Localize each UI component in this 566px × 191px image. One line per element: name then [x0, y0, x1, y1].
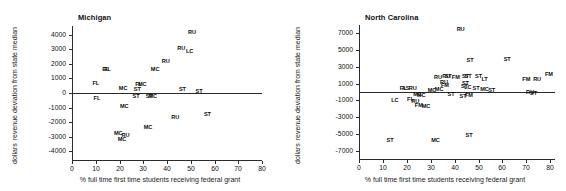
north-carolina-y-tick-label: -3000 — [319, 113, 353, 120]
michigan-x-tick — [96, 161, 97, 164]
north-carolina-x-tick-label: 30 — [421, 164, 441, 171]
north-carolina-y-tick — [356, 50, 359, 51]
michigan-y-tick-label: -4000 — [32, 147, 66, 154]
panel-north-carolina: North Carolina dollars revenue deviation… — [283, 0, 566, 191]
michigan-x-tick — [143, 161, 144, 164]
north-carolina-y-tick-label: -5000 — [319, 130, 353, 137]
michigan-y-tick-label: 3000 — [32, 45, 66, 52]
michigan-data-point: MC — [119, 87, 128, 93]
michigan-data-point: ST — [204, 112, 211, 118]
north-carolina-y-tick-label: -1000 — [319, 96, 353, 103]
michigan-y-tick-label: -2000 — [32, 118, 66, 125]
north-carolina-y-tick — [356, 33, 359, 34]
michigan-x-tick-label: 10 — [86, 165, 106, 172]
north-carolina-data-point: RU — [409, 86, 417, 92]
michigan-data-point: MC — [144, 125, 153, 131]
michigan-y-tick — [69, 49, 72, 50]
north-carolina-x-tick-label: 0 — [349, 164, 369, 171]
michigan-data-point: ST — [134, 87, 141, 93]
north-carolina-data-point: ST — [448, 92, 455, 98]
north-carolina-y-tick-label: 7000 — [319, 29, 353, 36]
north-carolina-y-tick — [356, 117, 359, 118]
michigan-x-tick-label: 20 — [110, 165, 130, 172]
north-carolina-data-point: MC — [428, 88, 437, 94]
north-carolina-data-point: ST — [466, 133, 473, 139]
michigan-x-tick — [238, 161, 239, 164]
michigan-x-tick — [191, 161, 192, 164]
north-carolina-x-tick-label: 70 — [516, 164, 536, 171]
north-carolina-data-point: RU — [457, 27, 465, 33]
michigan-data-point: MC — [149, 94, 158, 100]
michigan-x-tick — [72, 161, 73, 164]
michigan-x-tick-label: 60 — [205, 165, 225, 172]
michigan-data-point: ST — [133, 94, 140, 100]
north-carolina-data-point: ST — [504, 57, 511, 63]
north-carolina-x-tick — [455, 160, 456, 163]
michigan-y-tick-label: 0 — [32, 89, 66, 96]
michigan-data-point: EL — [102, 67, 109, 73]
michigan-x-tick — [262, 161, 263, 164]
north-carolina-y-tick-label: 1000 — [319, 80, 353, 87]
michigan-y-tick-label: 2000 — [32, 60, 66, 67]
plot-area-michigan: -4000-3000-2000-100001000200030004000010… — [0, 0, 283, 191]
north-carolina-data-point: ST — [465, 74, 472, 80]
north-carolina-data-point: RU — [533, 78, 541, 84]
north-carolina-x-tick — [550, 160, 551, 163]
north-carolina-x-tick — [431, 160, 432, 163]
michigan-x-tick-label: 50 — [181, 165, 201, 172]
north-carolina-data-point: LT — [481, 78, 487, 84]
north-carolina-x-tick — [407, 160, 408, 163]
michigan-data-point: RU — [171, 115, 179, 121]
michigan-x-tick-label: 80 — [252, 165, 272, 172]
michigan-y-tick-label: -1000 — [32, 104, 66, 111]
north-carolina-y-tick-label: 3000 — [319, 63, 353, 70]
panel-michigan: Michigan dollars revenue deviation from … — [0, 0, 283, 191]
michigan-data-point: LC — [186, 49, 193, 55]
north-carolina-data-point: ST — [473, 86, 480, 92]
north-carolina-data-point: FM — [452, 75, 460, 81]
michigan-y-tick-label: -3000 — [32, 133, 66, 140]
north-carolina-data-point: AS — [402, 86, 410, 92]
michigan-x-tick-label: 40 — [157, 165, 177, 172]
michigan-data-point: MC — [120, 104, 129, 110]
north-carolina-y-tick-label: 5000 — [319, 46, 353, 53]
north-carolina-data-point: MC — [422, 104, 431, 110]
michigan-y-tick — [69, 78, 72, 79]
north-carolina-y-tick — [356, 134, 359, 135]
michigan-data-point: RU — [177, 46, 185, 52]
north-carolina-data-point: ST — [530, 91, 537, 97]
michigan-y-tick — [69, 35, 72, 36]
michigan-y-tick — [69, 137, 72, 138]
north-carolina-x-tick-label: 50 — [469, 164, 489, 171]
north-carolina-x-tick — [359, 160, 360, 163]
north-carolina-x-tick-label: 10 — [373, 164, 393, 171]
north-carolina-data-point: MC — [431, 138, 440, 144]
michigan-y-tick — [69, 108, 72, 109]
north-carolina-y-tick — [356, 67, 359, 68]
north-carolina-y-tick — [356, 151, 359, 152]
north-carolina-data-point: ST — [467, 58, 474, 64]
north-carolina-x-tick — [502, 160, 503, 163]
michigan-y-tick-label: 4000 — [32, 31, 66, 38]
michigan-x-tick — [167, 161, 168, 164]
michigan-x-tick-label: 70 — [228, 165, 248, 172]
north-carolina-x-tick — [383, 160, 384, 163]
michigan-data-point: MC — [151, 67, 160, 73]
north-carolina-data-point: LC — [464, 85, 471, 91]
michigan-zero-reference-line — [72, 93, 262, 94]
michigan-y-tick — [69, 122, 72, 123]
north-carolina-data-point: ST — [488, 88, 495, 94]
michigan-data-point: FL — [94, 96, 101, 102]
north-carolina-x-tick-label: 20 — [397, 164, 417, 171]
north-carolina-x-tick — [479, 160, 480, 163]
michigan-x-tick-label: 0 — [62, 165, 82, 172]
north-carolina-data-point: LC — [391, 98, 398, 104]
michigan-x-tick — [120, 161, 121, 164]
michigan-data-point: RU — [162, 59, 170, 65]
north-carolina-data-point: FM — [465, 93, 473, 99]
michigan-data-point: FL — [92, 82, 99, 88]
figure-two-panel-scatter: Michigan dollars revenue deviation from … — [0, 0, 566, 191]
north-carolina-y-tick-label: -7000 — [319, 147, 353, 154]
michigan-data-point: ST — [179, 87, 186, 93]
north-carolina-x-tick — [526, 160, 527, 163]
